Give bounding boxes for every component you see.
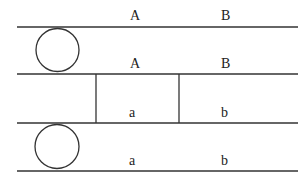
label-row3-a: a: [129, 153, 136, 168]
label-row1-A: A: [130, 56, 141, 71]
circle-upper: [36, 29, 79, 72]
label-row1-B: B: [221, 56, 230, 71]
label-row3-b: b: [221, 153, 228, 168]
circle-lower: [35, 125, 79, 169]
diagram-canvas: A B A B a b a b: [0, 0, 308, 178]
label-top-B: B: [221, 8, 230, 23]
label-row2-a: a: [129, 105, 136, 120]
label-row2-b: b: [221, 105, 228, 120]
label-top-A: A: [130, 8, 141, 23]
